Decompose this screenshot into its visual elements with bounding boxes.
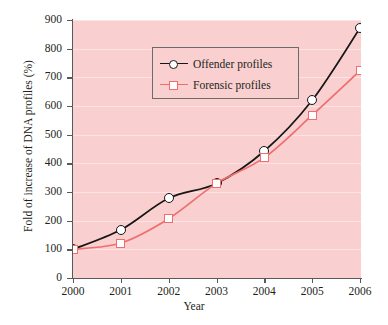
y-tick-label: 500 xyxy=(30,129,62,141)
data-point xyxy=(164,193,174,203)
data-point xyxy=(164,214,173,223)
y-tick-mark xyxy=(67,77,72,78)
y-tick-mark xyxy=(67,221,72,222)
y-tick-label: 300 xyxy=(30,186,62,198)
data-point xyxy=(355,23,361,33)
legend-item-forensic: Forensic profiles xyxy=(160,74,291,95)
data-point xyxy=(356,66,362,75)
legend-item-offender: Offender profiles xyxy=(160,53,291,74)
y-tick-label: 900 xyxy=(30,14,62,26)
legend-label-offender: Offender profiles xyxy=(193,58,272,70)
y-tick-label: 100 xyxy=(30,243,62,255)
x-tick-mark xyxy=(217,278,218,283)
plot-area: Offender profiles Forensic profiles xyxy=(73,20,361,278)
data-point xyxy=(260,153,269,162)
x-tick-label: 2000 xyxy=(50,286,96,298)
x-tick-label: 2003 xyxy=(194,286,240,298)
data-point xyxy=(73,245,78,254)
x-tick-label: 2001 xyxy=(98,286,144,298)
data-point xyxy=(212,179,221,188)
x-tick-mark xyxy=(360,278,361,283)
x-tick-mark xyxy=(169,278,170,283)
y-tick-mark xyxy=(67,49,72,50)
y-tick-mark xyxy=(67,20,72,21)
dna-profiles-line-chart: Offender profiles Forensic profiles 0100… xyxy=(0,0,388,325)
y-tick-mark xyxy=(67,135,72,136)
y-axis-title: Fold of increase of DNA profiles (%) xyxy=(22,26,34,266)
forensic-line-marker-icon xyxy=(160,79,188,91)
data-point xyxy=(116,239,125,248)
x-tick-mark xyxy=(73,278,74,283)
y-tick-mark xyxy=(67,192,72,193)
y-tick-mark xyxy=(67,278,72,279)
data-point xyxy=(308,111,317,120)
y-tick-mark xyxy=(67,163,72,164)
x-tick-mark xyxy=(312,278,313,283)
y-axis-line xyxy=(72,19,73,279)
x-tick-label: 2002 xyxy=(146,286,192,298)
x-tick-label: 2004 xyxy=(241,286,287,298)
y-tick-label: 600 xyxy=(30,100,62,112)
y-tick-mark xyxy=(67,106,72,107)
y-tick-label: 200 xyxy=(30,215,62,227)
x-tick-mark xyxy=(121,278,122,283)
offender-line-marker-icon xyxy=(160,58,188,70)
data-point xyxy=(116,225,126,235)
y-tick-label: 700 xyxy=(30,71,62,83)
y-tick-mark xyxy=(67,249,72,250)
x-tick-mark xyxy=(264,278,265,283)
legend-label-forensic: Forensic profiles xyxy=(193,79,271,91)
y-tick-label: 400 xyxy=(30,157,62,169)
x-tick-label: 2006 xyxy=(337,286,383,298)
y-tick-label: 800 xyxy=(30,43,62,55)
y-tick-label: 0 xyxy=(30,272,62,284)
x-axis-title: Year xyxy=(0,300,388,312)
x-tick-label: 2005 xyxy=(289,286,335,298)
chart-legend: Offender profiles Forensic profiles xyxy=(152,47,299,99)
